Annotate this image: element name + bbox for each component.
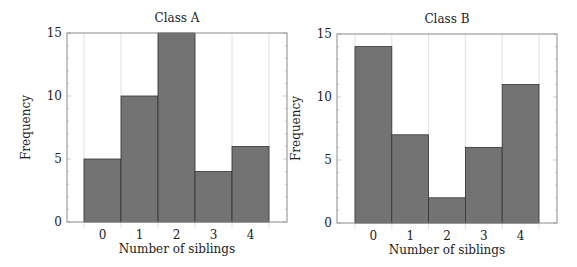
y-tick-label: 10 (47, 89, 62, 103)
x-tick-label: 3 (480, 229, 488, 243)
y-axis-label: Frequency (19, 95, 33, 160)
y-tick-label: 5 (54, 152, 62, 166)
bar-3 (465, 147, 502, 223)
bar-1 (121, 96, 158, 222)
x-axis-label: Number of siblings (389, 243, 505, 257)
bar-0 (355, 47, 392, 223)
x-tick-label: 0 (99, 228, 107, 242)
x-tick-label: 2 (443, 229, 451, 243)
x-tick-label: 1 (136, 228, 144, 242)
y-tick-label: 0 (54, 215, 62, 229)
x-tick-label: 3 (210, 228, 218, 242)
x-axis-label: Number of siblings (119, 242, 235, 256)
y-tick-label: 10 (317, 90, 332, 104)
x-tick-label: 2 (173, 228, 181, 242)
bar-4 (232, 146, 269, 222)
bar-1 (392, 135, 429, 223)
bar-2 (158, 33, 195, 222)
y-tick-label: 15 (47, 26, 62, 40)
y-axis-label: Frequency (289, 96, 303, 161)
x-tick-label: 0 (370, 229, 378, 243)
y-tick-label: 15 (317, 27, 332, 41)
bar-2 (429, 198, 466, 223)
x-tick-label: 4 (517, 229, 525, 243)
chart-class-a: 05101501234Number of siblingsFrequencyCl… (19, 11, 287, 256)
chart-title: Class B (424, 12, 469, 26)
chart-class-b: 05101501234Number of siblingsFrequencyCl… (289, 12, 557, 257)
bar-4 (502, 84, 539, 223)
x-tick-label: 4 (247, 228, 255, 242)
y-tick-label: 0 (324, 216, 332, 230)
chart-title: Class A (155, 11, 200, 25)
bar-3 (195, 172, 232, 222)
y-tick-label: 5 (324, 153, 332, 167)
bar-0 (84, 159, 121, 222)
x-tick-label: 1 (406, 229, 414, 243)
